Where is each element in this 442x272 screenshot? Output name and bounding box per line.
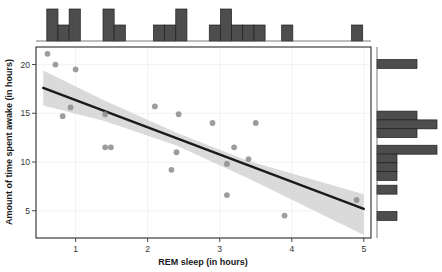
y-histogram-bar xyxy=(377,154,397,163)
data-point xyxy=(253,120,259,126)
x-histogram-bar xyxy=(220,9,231,41)
x-histogram-bar xyxy=(282,25,293,41)
y-histogram-bar xyxy=(377,172,397,181)
x-histogram-bar xyxy=(58,25,69,41)
data-point xyxy=(282,213,288,219)
x-histogram-bar xyxy=(352,25,363,41)
x-tick-label: 3 xyxy=(217,244,222,254)
y-histogram-bar xyxy=(377,129,417,138)
y-tick-label: 15 xyxy=(21,108,31,118)
x-histogram-bar xyxy=(153,25,164,41)
x-histogram-bar xyxy=(103,9,114,41)
y-histogram-bar xyxy=(377,163,397,172)
x-histogram-bar xyxy=(176,9,187,41)
data-point xyxy=(73,67,79,73)
data-point xyxy=(102,144,108,150)
y-tick-label: 20 xyxy=(21,60,31,70)
y-histogram-bar xyxy=(377,111,417,120)
y-histogram-bar xyxy=(377,211,397,220)
data-point xyxy=(246,156,252,162)
data-point xyxy=(68,105,74,111)
x-histogram-bar xyxy=(47,9,58,41)
data-point xyxy=(174,149,180,155)
data-point xyxy=(210,120,216,126)
y-tick-label: 5 xyxy=(25,206,30,216)
data-point xyxy=(224,192,230,198)
y-histogram-bar xyxy=(377,120,437,129)
data-point xyxy=(108,144,114,150)
data-point xyxy=(169,167,175,173)
data-point xyxy=(53,62,59,68)
x-histogram-bar xyxy=(232,25,243,41)
y-histogram-bar xyxy=(377,59,417,68)
chart-svg: 12345 5101520 REM sleep (in hours) Amoun… xyxy=(0,0,442,272)
y-axis-label: Amount of time spent awake (in hours) xyxy=(4,59,14,225)
x-histogram-bar xyxy=(254,25,265,41)
data-point xyxy=(60,113,66,119)
y-histogram-bar xyxy=(377,145,437,154)
x-histogram-bar xyxy=(243,25,254,41)
x-histogram-bar xyxy=(114,25,125,41)
x-histogram-bar xyxy=(165,25,176,41)
x-histogram-bar xyxy=(69,9,80,41)
data-point xyxy=(45,51,51,57)
x-histogram-bar xyxy=(209,25,220,41)
x-tick-label: 5 xyxy=(361,244,366,254)
data-point xyxy=(152,104,158,110)
data-point xyxy=(102,111,108,117)
data-point xyxy=(231,144,237,150)
y-histogram-bar xyxy=(377,185,397,194)
data-point xyxy=(176,111,182,117)
x-tick-label: 4 xyxy=(289,244,294,254)
data-point xyxy=(224,161,230,167)
x-tick-label: 2 xyxy=(145,244,150,254)
y-tick-label: 10 xyxy=(21,157,31,167)
scatter-plot-figure: 12345 5101520 REM sleep (in hours) Amoun… xyxy=(0,0,442,272)
x-tick-label: 1 xyxy=(73,244,78,254)
data-point xyxy=(354,197,360,203)
x-axis-label: REM sleep (in hours) xyxy=(158,257,248,267)
